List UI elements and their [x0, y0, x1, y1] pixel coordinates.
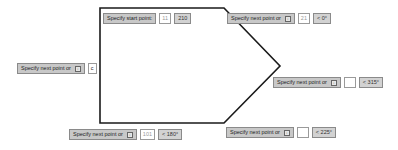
- options-dropdown-icon[interactable]: ↓: [331, 80, 337, 86]
- coordinate-value: 210: [174, 13, 191, 24]
- prompt-label: Specify next point or ↓: [17, 63, 85, 74]
- prompt-label: Specify next point or ↓: [69, 129, 137, 140]
- options-dropdown-icon[interactable]: ↓: [284, 130, 290, 136]
- distance-input[interactable]: 101: [140, 129, 155, 140]
- tooltip-next-point-180deg: Specify next point or ↓ 101 < 180°: [69, 129, 182, 140]
- drawing-canvas[interactable]: [0, 0, 398, 150]
- tooltip-close-polygon: Specify next point or ↓ c: [17, 63, 97, 74]
- angle-value: < 225°: [312, 127, 336, 138]
- angle-value: < 180°: [158, 129, 182, 140]
- command-input[interactable]: c: [88, 63, 97, 74]
- distance-input[interactable]: [344, 77, 356, 88]
- polygon-shape: [100, 8, 280, 123]
- prompt-label: Specify next point or ↓: [226, 127, 294, 138]
- prompt-text: Specify next point or: [230, 128, 280, 137]
- prompt-label: Specify next point or ↓: [273, 77, 341, 88]
- angle-value: < 315°: [359, 77, 383, 88]
- tooltip-next-point-0deg: Specify next point or ↓ 21 < 0°: [227, 13, 331, 24]
- prompt-label: Specify start point:: [103, 13, 156, 24]
- prompt-text: Specify start point:: [107, 14, 152, 23]
- distance-input[interactable]: 21: [298, 13, 310, 24]
- tooltip-next-point-315deg: Specify next point or ↓ < 315°: [273, 77, 383, 88]
- options-dropdown-icon[interactable]: ↓: [285, 16, 291, 22]
- tooltip-next-point-225deg: Specify next point or ↓ < 225°: [226, 127, 336, 138]
- prompt-text: Specify next point or: [231, 14, 281, 23]
- distance-input[interactable]: [297, 127, 309, 138]
- prompt-text: Specify next point or: [73, 130, 123, 139]
- tooltip-start-point: Specify start point: 11 210: [103, 13, 191, 24]
- prompt-text: Specify next point or: [277, 78, 327, 87]
- prompt-text: Specify next point or: [21, 64, 71, 73]
- prompt-label: Specify next point or ↓: [227, 13, 295, 24]
- options-dropdown-icon[interactable]: ↓: [75, 66, 81, 72]
- coordinate-input[interactable]: 11: [159, 13, 171, 24]
- options-dropdown-icon[interactable]: ↓: [127, 132, 133, 138]
- angle-value: < 0°: [313, 13, 331, 24]
